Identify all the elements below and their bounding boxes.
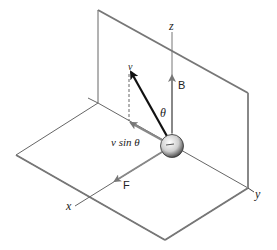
z-axis-label: z [168,19,174,33]
charged-particle [161,135,184,158]
diagram-svg: z B v θ v sin θ F x y [0,0,277,250]
y-axis-label: y [254,187,261,201]
v-sin-theta-label: v sin θ [111,136,140,148]
back-edge-tick [88,98,98,103]
v-label: v [128,61,133,72]
velocity-vector [131,72,168,138]
y-axis-line [248,188,254,192]
f-label: F [123,179,130,191]
b-label: B [178,79,185,91]
force-vector [115,152,162,181]
x-axis-label: x [65,199,72,213]
diagram-canvas: z B v θ v sin θ F x y [0,0,277,250]
theta-label: θ [160,106,166,120]
